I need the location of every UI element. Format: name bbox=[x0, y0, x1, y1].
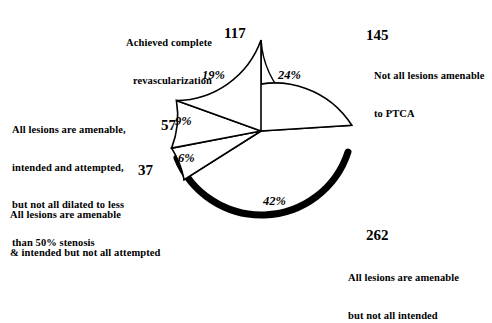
callout-value-57: 57 bbox=[161, 118, 176, 133]
callout-value-37: 37 bbox=[138, 163, 153, 178]
slice-percent-9: 9% bbox=[175, 115, 192, 128]
callout-value-145: 145 bbox=[366, 28, 389, 43]
callout-line: & intended but not all attempted bbox=[10, 247, 200, 260]
slice-percent-42: 42% bbox=[263, 195, 286, 208]
callout-line: to PTCA bbox=[374, 108, 492, 121]
callout-complete-revascularization: Achieved complete revascularization bbox=[64, 12, 212, 112]
callout-amenable-not-all-intended: All lesions are amenable but not all int… bbox=[348, 247, 490, 323]
callout-amenable-intended-not-attempted: All lesions are amenable & intended but … bbox=[10, 184, 200, 284]
callout-line: revascularization bbox=[64, 75, 212, 88]
slice-percent-6: 6% bbox=[178, 152, 195, 165]
callout-line: All lesions are amenable, bbox=[12, 124, 160, 137]
callout-value-262: 262 bbox=[366, 228, 389, 243]
callout-line: All lesions are amenable bbox=[348, 272, 490, 285]
callout-line: but not all intended bbox=[348, 310, 490, 323]
callout-not-all-lesions-amenable: Not all lesions amenable to PTCA bbox=[374, 45, 492, 145]
callout-line: All lesions are amenable bbox=[10, 209, 200, 222]
callout-value-117: 117 bbox=[224, 26, 246, 41]
callout-line: Not all lesions amenable bbox=[374, 70, 492, 83]
slice-percent-24: 24% bbox=[278, 69, 301, 82]
callout-line: Achieved complete bbox=[64, 37, 212, 50]
